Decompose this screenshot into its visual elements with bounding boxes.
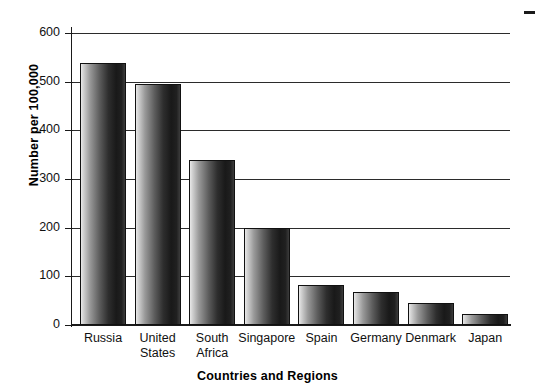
y-tick-label-200: 200 — [18, 220, 60, 234]
bar-spain — [298, 285, 344, 325]
y-tick-label-100: 100 — [18, 268, 60, 282]
gridline-600 — [73, 33, 510, 34]
gridline-500 — [73, 82, 510, 83]
y-tick-label-500: 500 — [18, 74, 60, 88]
bar-germany — [353, 292, 399, 325]
bar-russia — [80, 63, 126, 325]
x-tick-label-japan: Japan — [442, 331, 528, 346]
bar-japan — [462, 314, 508, 325]
y-tick-label-600: 600 — [18, 25, 60, 39]
y-tick-label-0: 0 — [18, 317, 60, 331]
scan-artifact-mark — [524, 11, 535, 14]
bar-denmark — [408, 303, 454, 325]
bar-chart: Number per 100,000 600 500 400 300 200 1… — [0, 0, 535, 392]
bar-south-africa — [189, 160, 235, 325]
bar-singapore — [244, 228, 290, 325]
y-tick-label-400: 400 — [18, 122, 60, 136]
plot-area — [73, 33, 510, 325]
x-axis-title: Countries and Regions — [0, 369, 535, 383]
y-axis-line — [71, 27, 72, 327]
y-tick-label-300: 300 — [18, 171, 60, 185]
bar-united-states — [135, 84, 181, 325]
